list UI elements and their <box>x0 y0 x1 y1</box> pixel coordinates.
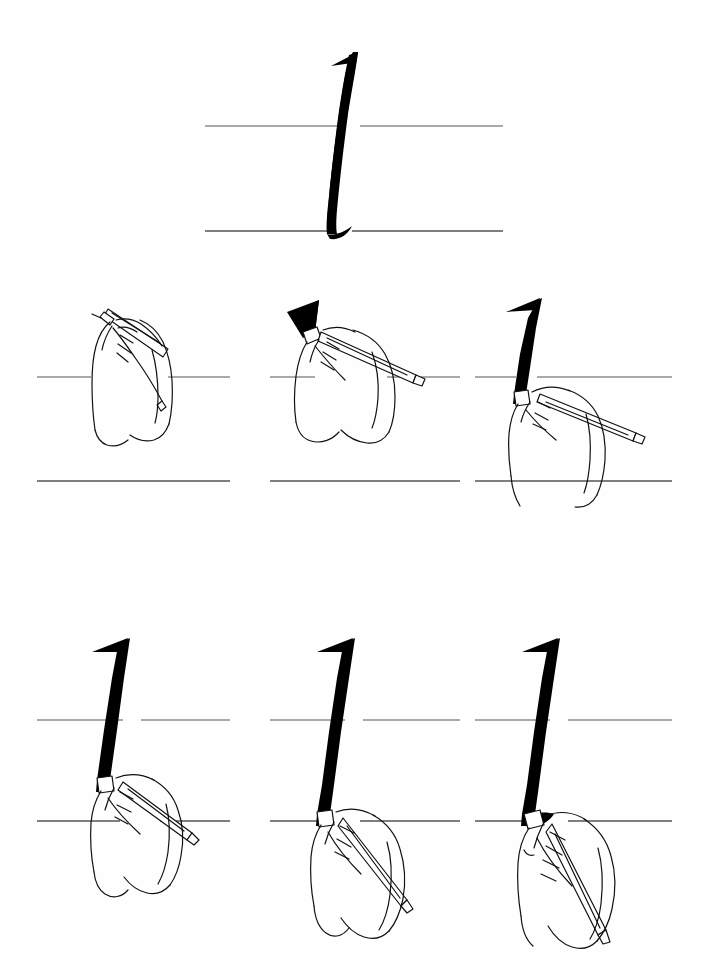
index-finger <box>116 319 162 346</box>
hand-outer-edge <box>548 926 597 948</box>
instruction-sheet <box>0 0 712 975</box>
pen-nib <box>514 390 530 406</box>
thumb <box>91 791 101 872</box>
step-4-panel <box>0 620 240 960</box>
pen-tail <box>633 433 645 444</box>
index-crease-2 <box>535 413 548 420</box>
pen-shaft <box>128 789 184 831</box>
step-1-drawing <box>0 280 240 510</box>
step-6-hand <box>518 810 615 948</box>
hand-back <box>353 330 395 432</box>
wrist-left <box>95 430 128 446</box>
step-6-panel <box>440 620 712 960</box>
hand-outer-edge <box>130 424 169 441</box>
middle-finger <box>108 798 140 834</box>
step-5-panel <box>235 620 475 960</box>
pen-nib <box>97 776 114 793</box>
thumb <box>518 828 529 916</box>
step-3-panel <box>440 280 712 510</box>
exemplar-drawing <box>0 0 712 280</box>
step-5-drawing <box>235 620 475 960</box>
step-2-drawing <box>235 280 475 510</box>
step-5-hand <box>311 809 413 938</box>
pen-nib <box>524 810 544 829</box>
step-4-hand <box>91 775 199 897</box>
pen-barrel <box>546 824 606 935</box>
hand-outer-edge <box>124 877 170 894</box>
step-4-drawing <box>0 620 240 960</box>
pen-shaft <box>555 834 600 928</box>
step-1-panel <box>0 280 240 510</box>
index-finger <box>323 328 355 332</box>
exemplar-stem-body <box>327 52 358 234</box>
hand-outer-edge <box>341 430 389 443</box>
hand-outer-edge <box>575 495 597 507</box>
step-3-hand <box>509 387 645 507</box>
step-3-ink-stem <box>506 298 542 404</box>
step-1-hand <box>92 309 172 446</box>
pen-shaft <box>327 338 407 375</box>
index-finger <box>532 387 570 392</box>
step-6-drawing <box>440 620 712 960</box>
step-2-hand <box>295 327 426 443</box>
pen-nib <box>317 810 334 827</box>
index-crease-3 <box>117 353 128 362</box>
middle-finger <box>526 410 556 440</box>
thumb <box>509 404 518 476</box>
wrist-left <box>296 422 339 442</box>
exemplar-panel <box>0 0 712 280</box>
step-6-guidelines <box>475 720 672 821</box>
index-finger <box>116 775 154 780</box>
pen-barrel <box>104 309 168 357</box>
index-crease-4 <box>541 874 556 881</box>
hand-back <box>568 390 605 495</box>
thumb <box>295 342 308 422</box>
thumb <box>92 322 110 430</box>
thumb-tip <box>524 850 534 855</box>
pen-nib-tip <box>92 314 101 318</box>
thumb-outer <box>310 340 319 362</box>
step-4-guidelines <box>37 720 230 821</box>
step-5-guidelines <box>270 720 460 821</box>
step-4-ink-stem <box>92 638 130 792</box>
step-1-guidelines <box>37 377 230 481</box>
wrist-left <box>521 916 533 946</box>
pen-nib <box>100 312 114 325</box>
thumb <box>311 825 321 906</box>
wrist-left <box>94 872 128 897</box>
step-2-panel <box>235 280 475 510</box>
pen-shaft <box>347 826 400 898</box>
step-3-drawing <box>440 280 712 510</box>
index-finger <box>336 809 375 816</box>
palm-line <box>152 350 158 423</box>
step-5-ink-stem <box>316 638 355 826</box>
step-6-ink-stem <box>521 638 560 826</box>
index-crease-2 <box>117 805 131 812</box>
